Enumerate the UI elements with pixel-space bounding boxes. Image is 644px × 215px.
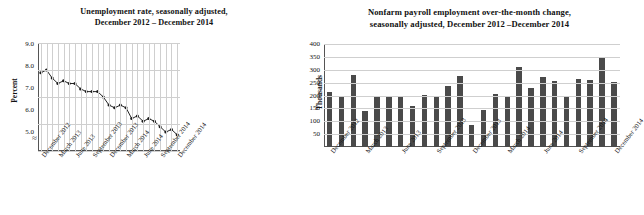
- bar: [469, 125, 474, 147]
- left-y-tick-6: 6.0: [14, 106, 34, 114]
- right-y-tick-label: 300: [298, 66, 320, 74]
- right-gridline-h: [324, 83, 620, 84]
- bar: [611, 82, 616, 147]
- left-gridline-v: [166, 43, 167, 151]
- left-y-tick-7: 7.0: [14, 84, 34, 92]
- left-chart-title-line2: December 2012 – December 2014: [95, 18, 214, 27]
- bar: [327, 92, 332, 147]
- right-gridline-h: [324, 108, 620, 109]
- bar: [351, 75, 356, 147]
- right-chart-title-line1: Nonfarm payroll employment over-the-mont…: [368, 7, 571, 17]
- right-chart-title-line2: seasonally adjusted, December 2012 –Dece…: [370, 19, 569, 29]
- bar: [576, 79, 581, 147]
- left-gridline-v: [86, 43, 87, 151]
- bar: [362, 111, 367, 147]
- axis-break-symbol: ≈: [32, 133, 37, 143]
- right-y-tick-label: 400: [298, 40, 320, 48]
- right-plot-area: [324, 44, 620, 147]
- left-gridline-v: [69, 43, 70, 151]
- right-y-tick-label: 200: [298, 92, 320, 100]
- right-gridline-h: [324, 96, 620, 97]
- bar: [540, 77, 545, 147]
- bar: [528, 88, 533, 147]
- left-chart-title-line1: Unemployment rate, seasonally adjusted,: [80, 7, 227, 16]
- right-y-tick-label: 150: [298, 104, 320, 112]
- right-gridline-h: [324, 57, 620, 58]
- left-y-tick-9: 9.0: [14, 40, 34, 48]
- left-gridline-v: [52, 43, 53, 151]
- right-y-tick-label: 50: [298, 130, 320, 138]
- right-y-tick-label: 250: [298, 79, 320, 87]
- left-gridline-v: [120, 43, 121, 151]
- right-gridline-h: [324, 70, 620, 71]
- right-gridline-h: [324, 44, 620, 45]
- left-gridline-v: [41, 43, 42, 151]
- left-gridline-v: [103, 43, 104, 151]
- nonfarm-payroll-chart: Nonfarm payroll employment over-the-mont…: [308, 0, 631, 215]
- left-y-tick-5: 5.0: [14, 128, 34, 136]
- right-chart-title: Nonfarm payroll employment over-the-mont…: [308, 6, 631, 30]
- right-y-tick-label: 100: [298, 117, 320, 125]
- left-gridline-v: [98, 43, 99, 151]
- left-gridline-v: [149, 43, 150, 151]
- right-gridline-h: [324, 121, 620, 122]
- bar: [457, 76, 462, 147]
- left-y-tick-8: 8.0: [14, 62, 34, 70]
- unemployment-rate-chart: Unemployment rate, seasonally adjusted, …: [0, 0, 308, 215]
- right-gridline-h: [324, 134, 620, 135]
- right-y-tick-label: 350: [298, 53, 320, 61]
- left-chart-title: Unemployment rate, seasonally adjusted, …: [0, 6, 308, 28]
- left-gridline-v: [47, 43, 48, 151]
